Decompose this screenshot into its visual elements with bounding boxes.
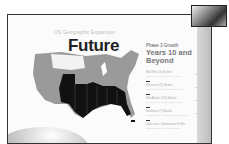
slide-subtitle: US Geographic Expansion [54,29,115,35]
slide-side-strip [197,15,211,143]
item-value: TBD [194,99,198,101]
item-desc: Expansion into eastern market region [146,101,198,103]
item-name: Southeast (?) Market [146,109,198,113]
years-heading: Years 10 and Beyond [146,49,206,65]
item-name: Mid-Atlantic (XX) Market [146,96,198,100]
item-name: Sales force Optimization Profile [146,122,198,126]
divider [146,94,150,95]
item-value: TBD [194,112,198,114]
market-list: Mid-West (X) Market Expansion into centr… [146,70,198,135]
presenter-webcam[interactable] [191,5,227,27]
item-value: TBD [194,86,198,88]
list-item: Mid-West (X) Market Expansion into centr… [146,70,198,83]
item-name: Wisconsin (X) Market [146,83,198,87]
item-desc: Expansion into central market region [146,75,198,77]
item-desc: Expansion into northern market region [146,88,198,90]
divider [146,81,150,82]
us-map [31,48,143,134]
list-item: Wisconsin (X) Market Expansion into nort… [146,83,198,96]
item-desc: Optimize sales force across regions [146,127,198,129]
item-value: TBD [194,73,198,75]
item-desc: Expansion into southeastern market regio… [146,114,198,116]
list-item: Southeast (?) Market Expansion into sout… [146,109,198,122]
list-item: Mid-Atlantic (XX) Market Expansion into … [146,96,198,109]
item-name: Mid-West (X) Market [146,70,198,74]
list-item: Sales force Optimization Profile Optimiz… [146,122,198,135]
divider [146,107,150,108]
divider [146,120,150,121]
presentation-slide: US Geographic Expansion Future Phase 3 G… [7,14,212,144]
